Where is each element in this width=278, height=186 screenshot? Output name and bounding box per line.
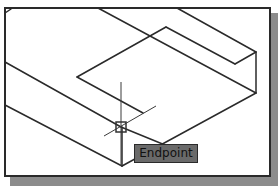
block-edge (98, 8, 256, 93)
block-edge (121, 127, 165, 145)
isometric-block (5, 8, 256, 166)
notch-edge (77, 27, 166, 77)
block-edge (177, 8, 256, 52)
block-edge (5, 9, 11, 13)
block-edge (5, 62, 121, 127)
block-edge (166, 27, 235, 64)
block-edge (235, 52, 256, 64)
snap-tooltip: Endpoint (134, 144, 198, 163)
